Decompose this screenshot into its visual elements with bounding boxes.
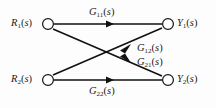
node-label-r1: R1(s): [11, 18, 32, 29]
edge-label-g12: G12(s): [137, 43, 163, 54]
node-label-y1: Y1(s): [177, 18, 197, 29]
node-y1: [163, 19, 174, 30]
node-r1: [43, 19, 54, 30]
node-label-r2: R2(s): [11, 74, 32, 85]
arrowhead-g11: [106, 21, 114, 28]
node-y2: [163, 75, 174, 86]
node-label-y2: Y2(s): [177, 74, 197, 85]
signal-flow-graph-figure: R1(s) R2(s) Y1(s) Y2(s) G11(s) G12(s) G2…: [0, 0, 216, 108]
edge-label-g22: G22(s): [89, 86, 115, 97]
node-r2: [43, 75, 54, 86]
edge-label-g11: G11(s): [89, 7, 114, 18]
arrowhead-g22: [106, 77, 114, 84]
edge-arrowheads: [106, 21, 131, 84]
edge-label-g21: G21(s): [137, 57, 163, 68]
